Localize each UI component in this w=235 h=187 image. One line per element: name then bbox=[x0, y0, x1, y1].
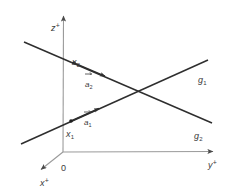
axes-group bbox=[41, 16, 213, 170]
vector-a2-overbar bbox=[85, 72, 92, 75]
y-axis-label-base: y bbox=[208, 160, 213, 170]
z-axis-line bbox=[63, 16, 64, 152]
vector-a1-overbar bbox=[84, 110, 91, 113]
y-axis-label-sup: + bbox=[213, 159, 217, 166]
line-g1-label-sub: 1 bbox=[203, 80, 207, 86]
origin-label-text: 0 bbox=[61, 163, 66, 173]
y-axis-label: y+ bbox=[208, 155, 217, 171]
y-axis-line bbox=[63, 152, 213, 153]
x-axis-label-base: x bbox=[40, 178, 45, 187]
point-x1-label-sub: 1 bbox=[71, 134, 75, 140]
diagram-canvas: z+ y+ x+ 0 g1 g2 x1 x2 a1 bbox=[0, 0, 235, 187]
z-axis-label-base: z bbox=[51, 23, 56, 33]
vector-a1-label-sub: 1 bbox=[88, 122, 91, 128]
line-g2-label: g2 bbox=[194, 126, 203, 142]
point-x2-label: x2 bbox=[72, 52, 80, 68]
x-axis-line bbox=[41, 152, 63, 170]
vector-a2-label-sub: 2 bbox=[89, 84, 92, 90]
origin-label: 0 bbox=[61, 158, 66, 174]
line-g2-label-sub: 2 bbox=[199, 136, 203, 142]
diagram-vector-layer bbox=[0, 0, 235, 187]
point-x1-label: x1 bbox=[66, 124, 74, 140]
line-g1 bbox=[21, 60, 208, 144]
point-x1-dot bbox=[69, 119, 73, 123]
z-axis-label: z+ bbox=[51, 18, 60, 34]
lines-group bbox=[21, 42, 212, 144]
point-x2-label-sub: 2 bbox=[77, 62, 81, 68]
z-axis-label-sup: + bbox=[56, 22, 60, 29]
vector-a1-label: a1 bbox=[84, 112, 92, 128]
point-x2-label-base: x bbox=[72, 57, 77, 67]
x-axis-label: x+ bbox=[40, 173, 49, 187]
points-group bbox=[69, 61, 76, 123]
line-g1-label: g1 bbox=[198, 70, 207, 86]
line-g2 bbox=[24, 42, 212, 123]
x-axis-label-sup: + bbox=[45, 177, 49, 184]
vector-a2-label: a2 bbox=[85, 74, 93, 90]
point-x1-label-base: x bbox=[66, 129, 71, 139]
